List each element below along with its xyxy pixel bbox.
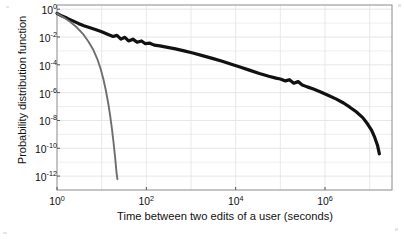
y-tick-label: 10-4 [39,58,57,71]
y-axis-title: Probability distribution function [16,5,28,175]
y-tick-label: 10-6 [39,86,57,99]
series-poisson-exponential-reference [57,13,117,179]
y-tick-label: 100 [41,2,57,15]
x-tick-label: 106 [317,194,333,207]
x-tick-label: 104 [228,194,244,207]
y-tick-label: 10-10 [35,142,57,155]
x-axis-title: Time between two edits of a user (second… [57,210,393,222]
figure-chart: 100 10-2 10-4 10-6 10-8 10-10 10-12 100 … [0,0,404,239]
x-tick-label: 102 [139,194,155,207]
x-tick-label: 100 [49,194,65,207]
y-tick-label: 10-12 [35,169,57,182]
series-empirical-inter-edit-time-distribution [57,13,379,153]
y-tick-label: 10-8 [39,114,57,127]
y-tick-label: 10-2 [39,30,57,43]
